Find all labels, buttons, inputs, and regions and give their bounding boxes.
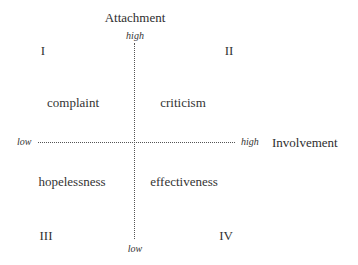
vertical-axis-title: Attachment: [105, 11, 166, 24]
vertical-axis-low-label: low: [128, 244, 142, 254]
vertical-axis-line: [134, 43, 135, 239]
horizontal-axis-high-label: high: [241, 137, 259, 147]
horizontal-axis-title: Involvement: [272, 136, 338, 149]
quadrant-1-numeral: I: [41, 44, 45, 57]
quadrant-4-numeral: IV: [219, 229, 233, 242]
horizontal-axis-low-label: low: [17, 137, 31, 147]
quadrant-2-numeral: II: [225, 44, 234, 57]
quadrant-2-label: criticism: [160, 96, 206, 109]
quadrant-4-label: effectiveness: [150, 175, 218, 188]
vertical-axis-high-label: high: [126, 31, 144, 41]
quadrant-1-label: complaint: [47, 96, 99, 109]
horizontal-axis-line: [38, 142, 235, 143]
quadrant-3-numeral: III: [40, 229, 53, 242]
quadrant-3-label: hopelessness: [38, 175, 105, 188]
